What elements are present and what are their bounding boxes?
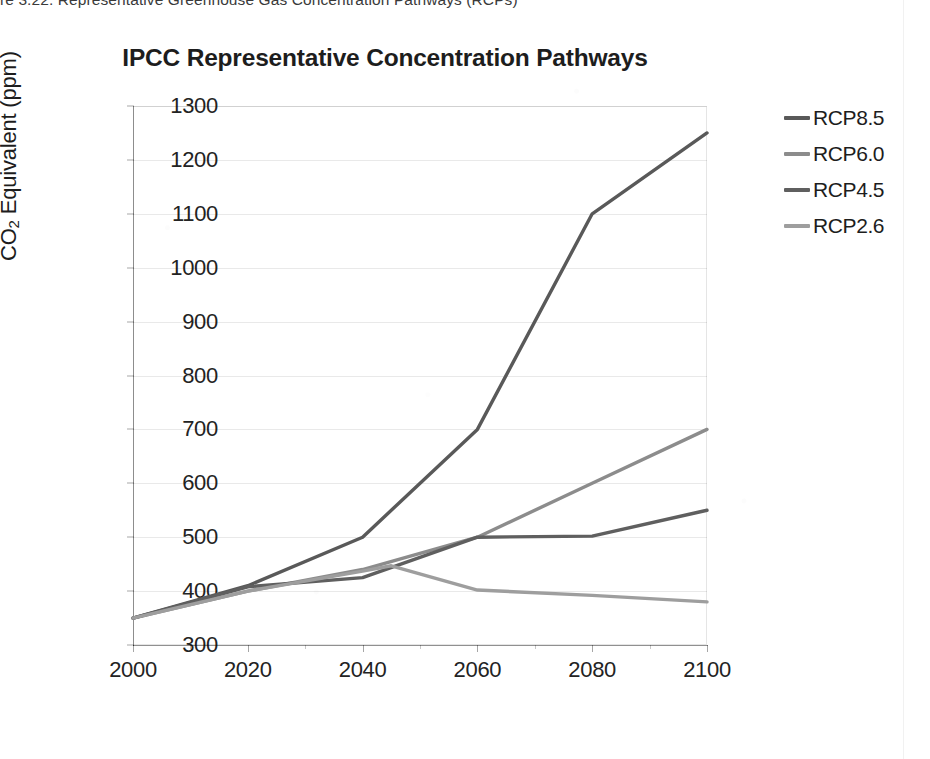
legend-item-rcp6.0[interactable]: RCP6.0 bbox=[784, 136, 924, 172]
chart-legend: RCP8.5RCP6.0RCP4.5RCP2.6 bbox=[784, 100, 924, 244]
legend-item-rcp4.5[interactable]: RCP4.5 bbox=[784, 172, 924, 208]
chart-container: IPCC Representative Concentration Pathwa… bbox=[0, 0, 930, 759]
legend-item-label: RCP2.6 bbox=[813, 214, 884, 238]
legend-item-rcp2.6[interactable]: RCP2.6 bbox=[784, 208, 924, 244]
legend-color-swatch bbox=[784, 116, 810, 120]
x-axis-tick-mark bbox=[363, 645, 364, 652]
series-line-rcp4.5 bbox=[133, 510, 707, 618]
legend-item-label: RCP4.5 bbox=[813, 178, 884, 202]
series-layer bbox=[133, 106, 707, 645]
y-axis-title-suffix: Equivalent (ppm) bbox=[0, 51, 21, 220]
x-axis-tick-label: 2040 bbox=[318, 657, 408, 683]
x-axis-tick-mark bbox=[133, 645, 134, 652]
x-axis-tick-label: 2020 bbox=[203, 657, 293, 683]
y-axis-title-subscript: 2 bbox=[5, 220, 22, 228]
series-line-rcp2.6 bbox=[133, 566, 707, 618]
legend-item-label: RCP8.5 bbox=[813, 106, 884, 130]
series-line-rcp8.5 bbox=[133, 133, 707, 618]
y-axis-title: CO2 Equivalent (ppm) bbox=[0, 51, 22, 261]
legend-color-swatch bbox=[784, 224, 810, 228]
x-axis-tick-mark bbox=[477, 645, 478, 652]
x-axis-tick-mark bbox=[707, 645, 708, 652]
legend-color-swatch bbox=[784, 188, 810, 192]
x-axis-tick-mark bbox=[592, 645, 593, 652]
gridline bbox=[133, 645, 707, 646]
legend-item-label: RCP6.0 bbox=[813, 142, 884, 166]
x-axis-tick-label: 2080 bbox=[547, 657, 637, 683]
series-line-rcp6.0 bbox=[133, 429, 707, 618]
chart-title: IPCC Representative Concentration Pathwa… bbox=[55, 44, 715, 72]
y-axis-title-prefix: CO bbox=[0, 228, 21, 261]
legend-color-swatch bbox=[784, 152, 810, 156]
x-axis-tick-label: 2100 bbox=[662, 657, 752, 683]
x-axis-tick-label: 2000 bbox=[88, 657, 178, 683]
legend-item-rcp8.5[interactable]: RCP8.5 bbox=[784, 100, 924, 136]
x-axis-tick-mark bbox=[248, 645, 249, 652]
x-axis-tick-label: 2060 bbox=[432, 657, 522, 683]
plot-area bbox=[133, 106, 707, 645]
